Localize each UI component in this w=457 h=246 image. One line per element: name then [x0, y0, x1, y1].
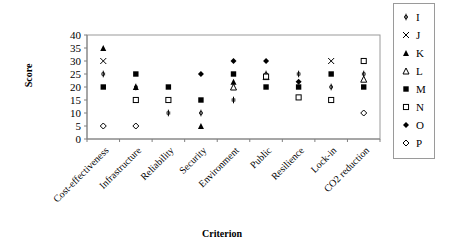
triangle-open-marker-icon: [401, 66, 411, 76]
svg-text:20: 20: [70, 81, 82, 93]
data-point: [133, 123, 139, 129]
y-axis: 0510152025303540: [70, 29, 87, 145]
data-point: [296, 71, 302, 78]
svg-text:40: 40: [70, 29, 82, 41]
data-point: [296, 95, 301, 100]
data-point: [328, 84, 334, 91]
data-point: [263, 58, 269, 64]
data-point: [264, 74, 269, 79]
data-point: [361, 58, 366, 63]
svg-text:5: 5: [76, 120, 82, 132]
data-point: [100, 45, 106, 51]
asterisk-marker-icon: [401, 12, 411, 22]
data-point: [361, 110, 367, 116]
legend-item-j: J: [394, 27, 434, 44]
legend-item-i: I: [394, 9, 434, 26]
svg-text:Public: Public: [248, 144, 274, 170]
diamond-open-marker-icon: [401, 138, 411, 148]
data-point: [296, 79, 302, 85]
y-axis-title: Score: [23, 56, 34, 96]
data-point: [166, 84, 171, 89]
data-point: [328, 58, 334, 64]
legend-item-k: K: [394, 45, 434, 62]
svg-text:0: 0: [76, 133, 82, 145]
svg-text:Reliability: Reliability: [138, 145, 176, 183]
data-point: [100, 123, 106, 129]
triangle-filled-marker-icon: [401, 48, 411, 58]
data-point: [231, 71, 236, 76]
data-point: [263, 84, 268, 89]
svg-text:Security: Security: [177, 145, 208, 176]
data-point: [101, 84, 106, 89]
data-point: [328, 71, 333, 76]
svg-text:Cost-effectiveness: Cost-effectiveness: [51, 145, 111, 205]
data-point: [198, 110, 204, 117]
svg-text:15: 15: [70, 94, 82, 106]
svg-text:25: 25: [70, 68, 82, 80]
svg-text:30: 30: [70, 55, 82, 67]
data-point: [361, 76, 367, 82]
data-point: [100, 71, 106, 78]
data-point: [231, 97, 237, 104]
data-point: [231, 84, 237, 90]
x-axis: Cost-effectivenessInfrastructureReliabil…: [51, 139, 380, 205]
data-point: [166, 97, 171, 102]
data-point: [133, 71, 138, 76]
diamond-filled-marker-icon: [401, 120, 411, 130]
data-point: [198, 97, 203, 102]
legend-item-p: P: [394, 135, 434, 152]
data-point: [231, 58, 237, 64]
data-point: [198, 71, 204, 77]
data-point: [329, 97, 334, 102]
legend: I J K L M N O P: [393, 3, 435, 159]
svg-text:Resilience: Resilience: [269, 144, 307, 182]
square-filled-marker-icon: [401, 84, 411, 94]
data-point: [198, 123, 204, 129]
data-point: [165, 110, 171, 117]
legend-item-l: L: [394, 63, 434, 80]
svg-text:10: 10: [70, 107, 82, 119]
x-axis-title: Criterion: [202, 228, 242, 239]
data-point: [361, 84, 366, 89]
data-point: [133, 97, 138, 102]
square-open-marker-icon: [401, 102, 411, 112]
scatter-chart: 0510152025303540 Cost-effectivenessInfra…: [0, 0, 457, 246]
svg-text:Lock-in: Lock-in: [308, 145, 338, 175]
legend-item-m: M: [394, 81, 434, 98]
data-points: [100, 45, 366, 129]
data-point: [100, 58, 106, 64]
data-point: [296, 84, 301, 89]
legend-item-o: O: [394, 117, 434, 134]
legend-item-n: N: [394, 99, 434, 116]
svg-text:35: 35: [70, 42, 82, 54]
x-marker-icon: [401, 30, 411, 40]
